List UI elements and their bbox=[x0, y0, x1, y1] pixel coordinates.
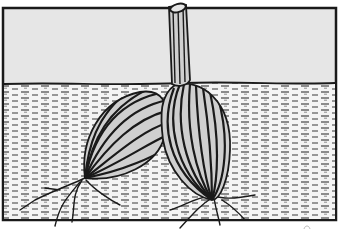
bulb-cross-section-illustration bbox=[0, 0, 345, 234]
soil-surface-line bbox=[4, 82, 335, 84]
corner-mark bbox=[303, 224, 311, 230]
stem bbox=[169, 2, 190, 86]
